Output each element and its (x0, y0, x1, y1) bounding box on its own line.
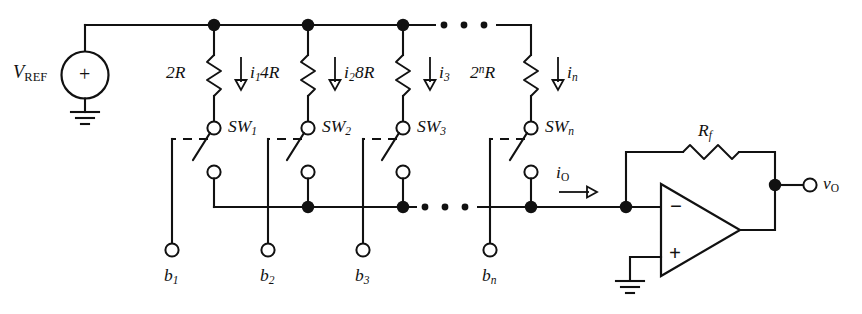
bus-ellipsis-dot (462, 204, 469, 211)
resistor-2nR-zigzag (524, 55, 538, 96)
resistor-4R-zigzag (301, 55, 315, 96)
resistor-label-3: 8R (355, 64, 374, 82)
branch-n-top-lead (500, 25, 531, 55)
voltage-source-label: VREF (13, 63, 47, 84)
bit-2-terminal (261, 243, 274, 256)
branch-current-arrows (236, 57, 564, 90)
bit-3-terminal (356, 243, 369, 256)
bit-label-1: b1 (164, 267, 179, 287)
switch-label-3: SW3 (417, 118, 446, 138)
bit-label-2: b2 (260, 267, 275, 287)
bit-label-n: bn (482, 267, 497, 287)
current-arrow-in-icon (553, 57, 564, 90)
current-label-n: in (567, 64, 578, 84)
opamp-inverting-sign: − (670, 196, 682, 217)
switch-label-2: SW2 (322, 118, 351, 138)
source-polarity-label: + (79, 64, 90, 84)
opamp-ground-icon (616, 281, 644, 293)
current-label-3: i3 (439, 64, 450, 84)
opamp-stage-group (616, 145, 817, 293)
feedback-right-wire (739, 152, 775, 185)
bit-1-terminal (165, 243, 178, 256)
current-arrow-i3-icon (425, 57, 436, 90)
summing-bus-group (214, 187, 626, 217)
output-current-arrow-icon (559, 187, 597, 198)
circuit-schematic-svg (0, 0, 862, 314)
noninverting-ground-wire (630, 257, 661, 281)
resistor-label-2: 4R (260, 64, 279, 82)
current-arrow-i1-icon (236, 57, 247, 90)
switch-3-throw-terminal (396, 165, 409, 178)
ladder-branch-1 (165, 19, 221, 257)
switch-n-throw-terminal (524, 165, 537, 178)
switch-3-blade (382, 133, 399, 160)
feedback-resistor-Rf-zigzag (683, 145, 739, 159)
current-arrow-i2-icon (330, 57, 341, 90)
switch-2-blade (287, 133, 304, 160)
switch-1-throw-terminal (207, 165, 220, 178)
opamp-output-wire (740, 192, 775, 230)
opamp-noninverting-sign: + (669, 243, 681, 264)
resistor-label-n: 2nR (470, 64, 495, 82)
bus-ellipsis-dot (442, 204, 449, 211)
output-current-label: iO (556, 164, 569, 184)
rail-ellipsis-dot (461, 22, 468, 29)
switch-label-n: SWn (545, 118, 574, 138)
switch-label-1: SW1 (228, 118, 257, 138)
resistor-label-1: 2R (166, 64, 185, 82)
feedback-resistor-label: Rf (698, 122, 712, 142)
switch-n-blade (510, 133, 527, 160)
resistor-8R-zigzag (396, 55, 410, 96)
current-label-1: i1 (250, 64, 261, 84)
output-voltage-label: vO (823, 175, 839, 195)
source-ground-icon (71, 112, 99, 124)
ladder-branch-3 (356, 19, 410, 257)
bit-label-3: b3 (355, 267, 370, 287)
output-terminal (803, 178, 816, 191)
bus-ellipsis-dot (422, 204, 429, 211)
circuit-figure: VREF + 2R 4R 8R 2nR i1 i2 i3 in SW1 SW2 … (0, 0, 862, 314)
switch-2-throw-terminal (301, 165, 314, 178)
current-label-2: i2 (344, 64, 355, 84)
rail-ellipsis-dot (441, 22, 448, 29)
switch-1-blade (193, 133, 210, 160)
rail-ellipsis-dot (481, 22, 488, 29)
ladder-branch-2 (261, 19, 315, 257)
bit-n-terminal (483, 243, 496, 256)
output-node (769, 179, 781, 191)
ladder-branch-n (483, 25, 538, 257)
resistor-2R-zigzag (207, 55, 221, 96)
